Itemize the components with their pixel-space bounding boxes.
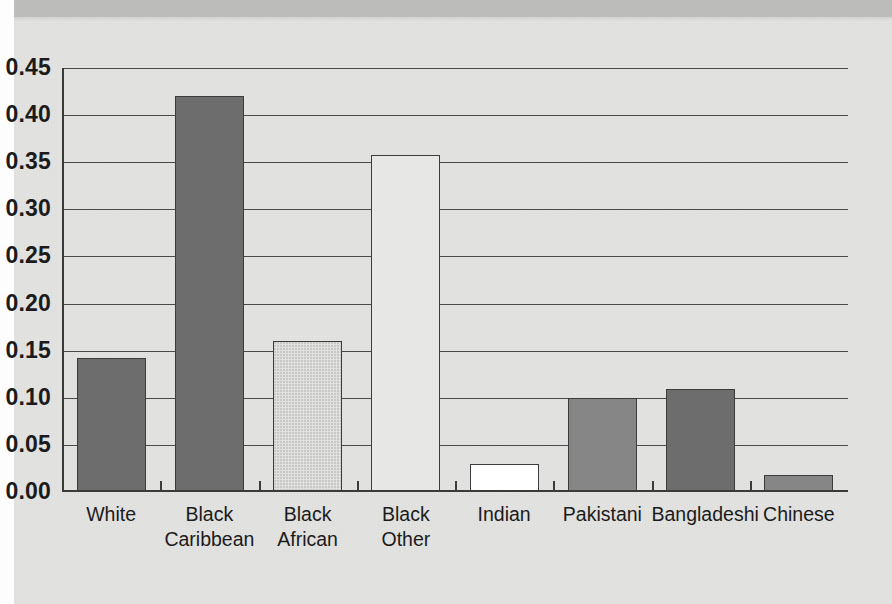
y-axis-tick-label: 0.15 bbox=[5, 337, 51, 364]
plot-area: 0.000.050.100.150.200.250.300.350.400.45 bbox=[62, 68, 848, 492]
y-axis-line bbox=[62, 68, 64, 492]
y-axis-tick-label: 0.25 bbox=[5, 242, 51, 269]
bar bbox=[371, 155, 440, 492]
bar bbox=[666, 389, 735, 492]
y-axis-tick-label: 0.20 bbox=[5, 290, 51, 317]
y-axis-tick-label: 0.00 bbox=[5, 478, 51, 505]
gridline bbox=[62, 68, 848, 69]
category-label: Black African bbox=[259, 502, 357, 552]
category-label: Chinese bbox=[750, 502, 848, 527]
y-axis-tick-label: 0.05 bbox=[5, 431, 51, 458]
category-label: Bangladeshi bbox=[652, 502, 750, 527]
bar bbox=[470, 464, 539, 492]
bar bbox=[273, 341, 342, 492]
scan-top-band-fade bbox=[14, 17, 892, 22]
category-label: Black Caribbean bbox=[160, 502, 258, 552]
category-label: Indian bbox=[455, 502, 553, 527]
category-label: White bbox=[62, 502, 160, 527]
bar bbox=[568, 398, 637, 492]
category-label: Pakistani bbox=[553, 502, 651, 527]
y-axis-tick-label: 0.35 bbox=[5, 148, 51, 175]
y-axis-tick-label: 0.30 bbox=[5, 195, 51, 222]
scanned-page: 0.000.050.100.150.200.250.300.350.400.45… bbox=[0, 0, 892, 604]
scan-top-band bbox=[14, 0, 892, 17]
category-label: Black Other bbox=[357, 502, 455, 552]
x-axis-line bbox=[62, 490, 848, 492]
bar bbox=[175, 96, 244, 492]
y-axis-tick-label: 0.10 bbox=[5, 384, 51, 411]
y-axis-tick-label: 0.40 bbox=[5, 101, 51, 128]
bar bbox=[77, 358, 146, 492]
y-axis-tick-label: 0.45 bbox=[5, 54, 51, 81]
